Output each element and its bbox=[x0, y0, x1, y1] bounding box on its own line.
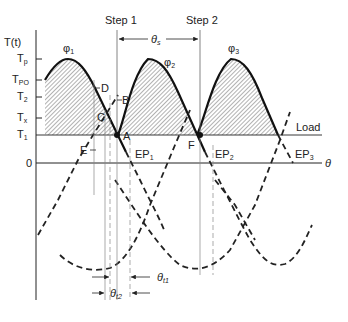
load-label: Load bbox=[296, 121, 320, 133]
hatched-torque-area bbox=[45, 59, 278, 135]
point-C: C bbox=[97, 111, 105, 123]
ep3-label: EP3 bbox=[295, 148, 314, 161]
tick-TPO: TPO bbox=[12, 73, 29, 86]
point-F-marker bbox=[197, 132, 203, 138]
step1-label: Step 1 bbox=[105, 14, 137, 26]
phase-2-label: φ2 bbox=[164, 56, 175, 69]
phase-3-label: φ3 bbox=[228, 42, 239, 55]
theta-t1-label: θt1 bbox=[157, 271, 169, 284]
tick-Tx: Tx bbox=[17, 111, 28, 124]
tick-zero: 0 bbox=[26, 157, 32, 169]
x-axis-label: θ bbox=[325, 157, 331, 169]
point-D: D bbox=[101, 82, 109, 94]
ep2-label: EP2 bbox=[215, 148, 234, 161]
tick-T1: T1 bbox=[17, 128, 28, 141]
point-E: E bbox=[80, 144, 87, 156]
point-A: A bbox=[123, 130, 131, 142]
tick-T2: T2 bbox=[17, 90, 28, 103]
step2-label: Step 2 bbox=[186, 14, 218, 26]
phase-1-label: φ1 bbox=[63, 42, 74, 55]
point-B: B bbox=[122, 94, 129, 106]
torque-angle-diagram: Load Step 1 Step 2 θs φ1 φ2 φ3 T(t) Tp T… bbox=[0, 0, 348, 322]
theta-t2-label: θt2 bbox=[110, 287, 122, 300]
ep1-label: EP1 bbox=[135, 148, 154, 161]
point-A-marker bbox=[114, 132, 120, 138]
point-F: F bbox=[188, 139, 195, 151]
y-axis-label: T(t) bbox=[4, 36, 21, 48]
tick-Tp: Tp bbox=[17, 52, 28, 66]
theta-s-label: θs bbox=[151, 33, 161, 46]
